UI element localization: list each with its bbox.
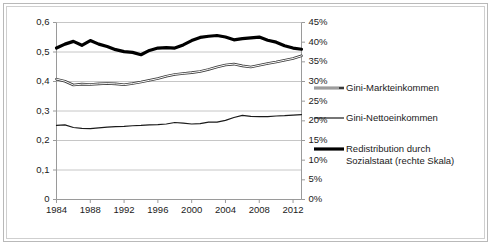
series-line-markteinkommen-outer xyxy=(57,56,302,85)
right-axis-tick-labels: 0%5%10%15%20%25%30%35%40%45% xyxy=(309,16,329,204)
right-axis-tick-label: 0% xyxy=(309,193,323,204)
chart-legend: Gini-MarkteinkommenGini-NettoeinkommenRe… xyxy=(314,82,454,166)
x-axis-tick-label: 2008 xyxy=(249,204,270,215)
right-axis-tick-label: 40% xyxy=(309,36,329,47)
left-axis-tick-label: 0,1 xyxy=(36,164,49,175)
x-axis-tick-label: 2000 xyxy=(181,204,202,215)
legend-label: Gini-Nettoeinkommen xyxy=(346,112,438,123)
series-line-nettoeinkommen xyxy=(57,115,302,129)
series-line-markteinkommen-core xyxy=(57,56,302,85)
right-axis-tick-label: 35% xyxy=(309,55,329,66)
left-axis-tick-label: 0,6 xyxy=(36,16,49,27)
left-axis-tick-label: 0,2 xyxy=(36,134,49,145)
legend-label: Redistribution durch xyxy=(346,143,431,154)
x-axis-tick-label: 1992 xyxy=(114,204,135,215)
left-axis-tick-label: 0 xyxy=(44,193,49,204)
right-axis-tick-label: 20% xyxy=(309,114,329,125)
x-axis-tick-label: 2004 xyxy=(215,204,236,215)
left-axis-tick-label: 0,5 xyxy=(36,46,49,57)
left-axis-tick-label: 0,3 xyxy=(36,105,49,116)
right-axis-tick-label: 5% xyxy=(309,173,323,184)
left-axis-tick-label: 0,4 xyxy=(36,75,49,86)
legend-label: Gini-Markteinkommen xyxy=(346,82,439,93)
chart-figure: 00,10,20,30,40,50,6 0%5%10%15%20%25%30%3… xyxy=(0,0,491,245)
x-axis-tick-label: 2012 xyxy=(282,204,303,215)
gridlines xyxy=(57,23,302,200)
right-axis-tick-label: 45% xyxy=(309,16,329,27)
right-axis-tick-label: 10% xyxy=(309,154,329,165)
x-axis-tick-label: 1996 xyxy=(147,204,168,215)
x-axis-tick-labels: 19841988199219962000200420082012 xyxy=(46,204,304,215)
right-axis-tick-label: 15% xyxy=(309,134,329,145)
left-axis-tick-labels: 00,10,20,30,40,50,6 xyxy=(36,16,49,204)
x-axis-tick-label: 1988 xyxy=(80,204,101,215)
legend-label: Sozialstaat (rechte Skala) xyxy=(346,155,454,166)
chart-plot: 00,10,20,30,40,50,6 0%5%10%15%20%25%30%3… xyxy=(0,0,491,245)
series-lines xyxy=(57,35,302,128)
legend-item-gini-markteinkommen[interactable]: Gini-Markteinkommen xyxy=(314,82,439,93)
legend-item-redistribution[interactable]: Redistribution durchSozialstaat (rechte … xyxy=(314,143,454,166)
legend-item-gini-nettoeinkommen[interactable]: Gini-Nettoeinkommen xyxy=(314,112,438,123)
axes xyxy=(53,23,305,204)
right-axis-tick-label: 30% xyxy=(309,75,329,86)
x-axis-tick-label: 1984 xyxy=(46,204,67,215)
right-axis-tick-label: 25% xyxy=(309,95,329,106)
